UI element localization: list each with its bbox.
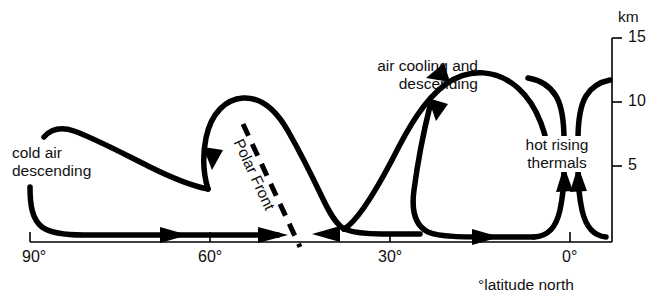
arrowhead-polar-surface: [160, 227, 188, 243]
arrowhead-hadley-return: [312, 226, 340, 242]
label-air-cooling-descending: air cooling and descending: [326, 57, 478, 93]
ferrel-cell-curve: [204, 98, 344, 229]
y-tick-label-10: 10: [628, 92, 646, 110]
y-axis-label-km: km: [618, 8, 639, 26]
y-tick-label-5: 5: [628, 156, 637, 174]
arrowhead-ferrel-surface: [258, 227, 288, 243]
polar-surface-flow: [30, 187, 278, 235]
ferrel-cell-flow: [203, 98, 344, 229]
hadley-upper-return: [344, 229, 420, 234]
x-tick-label-60: 60°: [198, 248, 222, 266]
label-cold-air-descending: cold air descending: [12, 144, 91, 180]
x-tick-label-0: 0°: [562, 248, 577, 266]
figure-canvas: cold air descending air cooling and desc…: [0, 0, 660, 301]
x-axis-label-latitude: °latitude north: [478, 276, 574, 294]
x-tick-label-90: 90°: [22, 248, 46, 266]
label-hot-rising-thermals: hot rising thermals: [514, 136, 600, 172]
x-tick-label-30: 30°: [378, 248, 402, 266]
y-tick-label-15: 15: [628, 28, 646, 46]
